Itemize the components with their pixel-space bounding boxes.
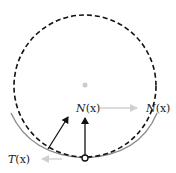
contact-point [82, 155, 88, 161]
normal-label-left: N(x) [75, 102, 100, 115]
tangent-label: T(x) [8, 153, 30, 166]
diagram-canvas: N(x) N(x) T(x) [0, 0, 176, 173]
slanted-normal-arrow [48, 117, 68, 149]
curve-arc [11, 113, 157, 158]
center-dot [83, 83, 88, 88]
normal-label-right: N(x) [145, 102, 170, 115]
